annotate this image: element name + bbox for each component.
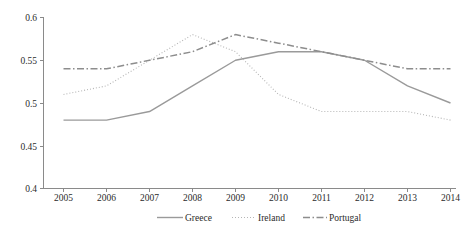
x-tick-label-0: 2005 xyxy=(54,193,73,203)
x-tick-label-3: 2008 xyxy=(183,193,202,203)
x-tick-label-4: 2009 xyxy=(226,193,245,203)
series-line-portugal xyxy=(64,35,451,69)
y-tick-label-0: 0.6 xyxy=(25,13,37,23)
x-tick-label-6: 2011 xyxy=(312,193,331,203)
chart-legend: Greece Ireland Portugal xyxy=(157,213,362,223)
legend-label-ireland: Ireland xyxy=(258,213,285,223)
series-line-greece xyxy=(64,52,451,120)
x-axis-ticks: 2005 2006 2007 2008 2009 2010 2011 2012 … xyxy=(54,189,460,204)
y-tick-label-3: 0.45 xyxy=(20,142,37,152)
x-tick-label-7: 2012 xyxy=(355,193,374,203)
x-tick-label-5: 2010 xyxy=(269,193,288,203)
legend-label-greece: Greece xyxy=(185,213,212,223)
chart-canvas: 0.6 0.55 0.5 0.45 0.4 2005 2006 2007 200… xyxy=(0,0,464,234)
y-tick-label-4: 0.4 xyxy=(25,184,37,194)
x-tick-label-8: 2013 xyxy=(398,193,417,203)
x-tick-label-2: 2007 xyxy=(140,193,159,203)
y-axis-ticks: 0.6 0.55 0.5 0.45 0.4 xyxy=(20,13,43,194)
axes-group xyxy=(44,17,457,189)
series-group xyxy=(64,35,451,121)
y-tick-label-2: 0.5 xyxy=(25,99,37,109)
line-chart: 0.6 0.55 0.5 0.45 0.4 2005 2006 2007 200… xyxy=(0,0,464,234)
legend-label-portugal: Portugal xyxy=(329,213,362,223)
y-tick-label-1: 0.55 xyxy=(20,56,37,66)
x-tick-label-1: 2006 xyxy=(97,193,116,203)
x-tick-label-9: 2014 xyxy=(441,193,460,203)
